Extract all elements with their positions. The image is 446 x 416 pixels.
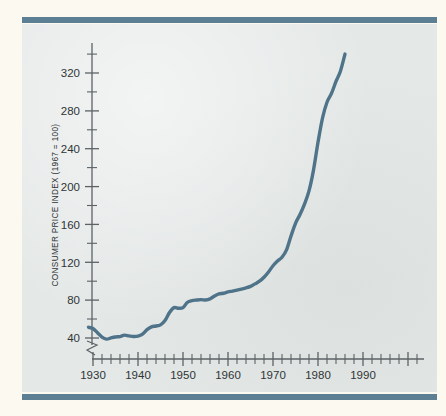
x-tick-label-1970: 1970: [260, 369, 286, 381]
y-tick-label-120: 120: [61, 257, 80, 269]
y-tick-label-200: 200: [61, 181, 80, 193]
y-axis-break-symbol: [87, 341, 97, 355]
y-tick-label-240: 240: [61, 143, 80, 155]
y-tick-label-280: 280: [61, 105, 80, 117]
bottom-decorative-rule: [22, 394, 437, 400]
y-tick-label-80: 80: [67, 294, 80, 306]
x-tick-label-1960: 1960: [215, 369, 241, 381]
y-tick-label-160: 160: [61, 219, 80, 231]
x-axis-tick-labels: 1930 1940 1950 1960 1970 1980 1990: [80, 369, 376, 381]
x-tick-label-1950: 1950: [170, 369, 196, 381]
cpi-line-chart: 320 280 240 200 160 120 80 40 CONSUMER P…: [0, 0, 446, 416]
y-tick-label-320: 320: [61, 67, 80, 79]
y-tick-label-40: 40: [67, 332, 80, 344]
x-tick-label-1980: 1980: [305, 369, 331, 381]
figure-root: 320 280 240 200 160 120 80 40 CONSUMER P…: [0, 0, 446, 416]
x-tick-label-1940: 1940: [125, 369, 151, 381]
x-tick-label-1930: 1930: [80, 369, 106, 381]
y-axis-title: CONSUMER PRICE INDEX (1967 = 100): [51, 124, 60, 287]
x-tick-label-1990: 1990: [350, 369, 376, 381]
cpi-data-line: [89, 54, 346, 339]
y-axis-tick-labels: 320 280 240 200 160 120 80 40: [61, 67, 80, 344]
